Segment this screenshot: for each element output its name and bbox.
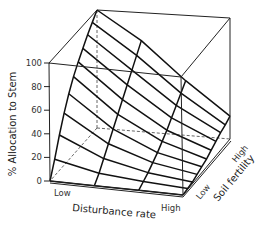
z-tick-60: 60	[31, 105, 42, 115]
z-axis-label: % Allocation to Stem	[7, 72, 18, 177]
z-tick-20: 20	[31, 152, 42, 162]
surface-chart: 0 20 40 60 80 100 % Allocation to Stem L…	[0, 0, 261, 229]
y-tick-low: Low	[194, 182, 212, 201]
z-tick-100: 100	[26, 58, 42, 68]
fertility-line	[83, 48, 216, 141]
disturbance-line	[94, 41, 141, 186]
box-hidden-edges	[50, 10, 230, 181]
z-tick-40: 40	[31, 129, 42, 139]
x-tick-low: Low	[54, 188, 71, 198]
z-tick-80: 80	[31, 82, 42, 92]
surface-mesh	[50, 10, 230, 195]
fertility-line	[88, 35, 221, 133]
z-axis: 0 20 40 60 80 100 % Allocation to Stem	[7, 58, 50, 186]
fertility-line	[59, 135, 192, 182]
x-tick-high: High	[161, 203, 181, 213]
x-axis-label: Disturbance rate	[72, 202, 157, 220]
box-frame	[49, 10, 231, 197]
fertility-line	[97, 10, 230, 116]
fertility-line	[74, 77, 207, 159]
z-tick-0: 0	[37, 176, 42, 186]
